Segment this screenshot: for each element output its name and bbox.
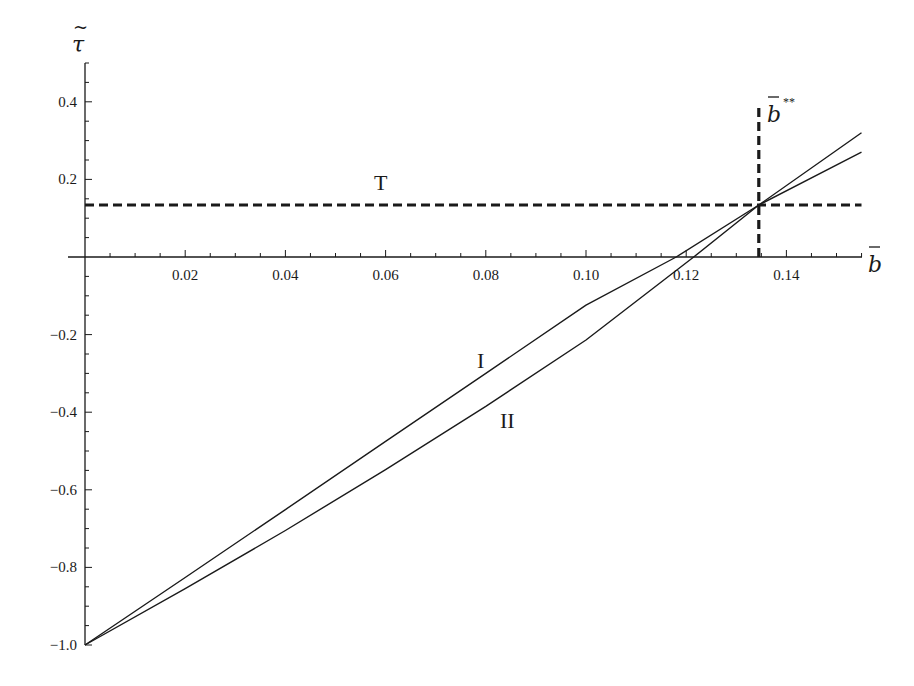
x-tick-label: 0.04 <box>272 267 299 283</box>
x-tick-label: 0.08 <box>473 267 499 283</box>
double-star-superscript: ** <box>783 95 795 109</box>
curve-label-ii: II <box>500 408 515 433</box>
x-tick-label: 0.02 <box>172 267 198 283</box>
y-tick-label: −0.2 <box>50 327 77 343</box>
data-series <box>85 106 862 645</box>
chart-canvas: 0.020.040.060.080.100.120.140.40.2−0.2−0… <box>0 0 914 686</box>
x-axis-title: b <box>868 247 882 277</box>
y-tick-label: −0.4 <box>50 404 78 420</box>
y-tick-label: −0.8 <box>50 559 77 575</box>
x-tick-label: 0.06 <box>372 267 399 283</box>
y-tick-label: 0.4 <box>58 94 77 110</box>
y-tick-label: 0.2 <box>58 171 77 187</box>
b-double-star-label: b ** <box>767 95 795 127</box>
curve-label-t: T <box>374 170 388 195</box>
x-tick-label: 0.14 <box>773 267 800 283</box>
y-axis-title: τ ~ <box>72 16 88 57</box>
x-axis-symbol: b <box>868 252 882 277</box>
series-ii-line <box>85 133 862 645</box>
b-double-star-symbol: b <box>767 102 781 127</box>
tilde-accent: ~ <box>73 16 88 37</box>
x-tick-label: 0.10 <box>573 267 599 283</box>
series-i-line <box>85 152 862 645</box>
y-tick-label: −1.0 <box>50 637 77 653</box>
axes <box>68 63 862 645</box>
y-tick-label: −0.6 <box>50 482 78 498</box>
curve-label-i: I <box>477 348 484 373</box>
axis-ticks: 0.020.040.060.080.100.120.140.40.2−0.2−0… <box>50 63 862 653</box>
